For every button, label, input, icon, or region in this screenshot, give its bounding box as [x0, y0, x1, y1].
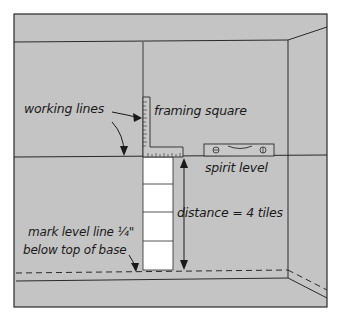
wall-tiling-diagram: working lines framing square spirit leve…	[0, 0, 343, 317]
label-spirit-level: spirit level	[205, 162, 268, 175]
spirit-level	[204, 144, 274, 156]
label-working-lines: working lines	[24, 103, 104, 116]
label-distance: distance = 4 tiles	[177, 207, 283, 220]
label-below-top-of-base: below top of base	[23, 244, 126, 256]
label-mark-level-line: mark level line ¼"	[28, 226, 134, 238]
label-framing-square: framing square	[154, 105, 247, 118]
tile-column	[143, 157, 173, 270]
